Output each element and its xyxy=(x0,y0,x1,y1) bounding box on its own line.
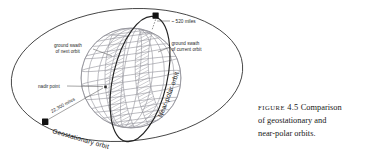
swath-current-label-line2: of current orbit xyxy=(172,47,203,52)
altitude-leader-near-polar xyxy=(152,20,170,31)
caption-figure-word: FIGURE xyxy=(258,104,285,111)
figure-caption: FIGURE 4.5 Comparison of geostationary a… xyxy=(258,101,375,141)
altitude-geostationary-label: 22,300 miles xyxy=(50,96,76,114)
nadir-point-label: nadir point xyxy=(38,84,60,89)
geostationary-satellite-marker xyxy=(42,119,48,125)
caption-figure-number: 4.5 xyxy=(287,103,298,112)
caption-line-3: near-polar orbits. xyxy=(258,127,375,140)
figure-container: ~ 520 miles 22,300 miles Geostationary o… xyxy=(0,0,375,160)
geostationary-orbit-label: Geostationary orbit xyxy=(51,127,110,151)
orbit-diagram: ~ 520 miles 22,300 miles Geostationary o… xyxy=(0,0,252,160)
swath-current-label-line1: ground swath xyxy=(172,41,200,46)
caption-line-1-rest: Comparison xyxy=(301,103,342,112)
near-polar-satellite-marker xyxy=(153,13,159,19)
swath-next-label-line2: of next orbit xyxy=(56,49,81,54)
caption-line-2: of geostationary and xyxy=(258,114,375,127)
caption-line-1: FIGURE 4.5 Comparison xyxy=(258,101,375,114)
altitude-near-polar-label: ~ 520 miles xyxy=(172,19,197,24)
nadir-point-marker xyxy=(104,86,107,89)
swath-next-label-line1: ground swath xyxy=(54,43,82,48)
diagram-svg: ~ 520 miles 22,300 miles Geostationary o… xyxy=(0,0,252,160)
globe-outline xyxy=(81,28,181,128)
